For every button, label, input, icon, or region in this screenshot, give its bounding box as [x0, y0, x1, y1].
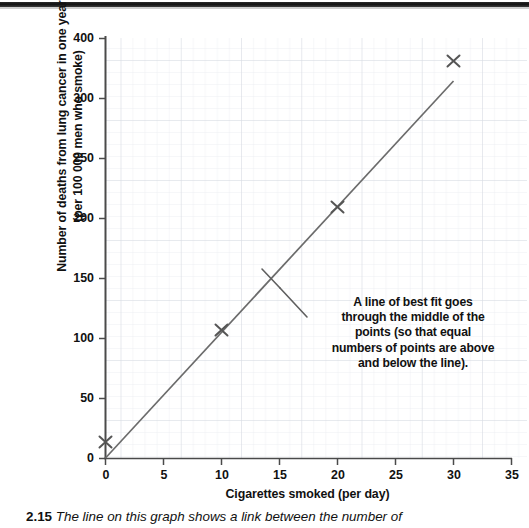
figure-caption-number: 2.15: [26, 509, 52, 524]
y-axis-title: Number of deaths from lung cancer in one…: [54, 0, 86, 346]
grid-paper: [105, 38, 527, 458]
annotation-line-3: points (so that equal: [305, 325, 521, 340]
annotation-line-5: and below the line).: [305, 356, 521, 371]
xtick-label-20: 20: [323, 468, 353, 482]
ytick-label-0: 0: [48, 451, 94, 465]
figure-caption: 2.15 The line on this graph shows a link…: [26, 508, 529, 526]
xtick-label-35: 35: [497, 468, 527, 482]
ytick-label-50: 50: [48, 391, 94, 405]
y-axis-title-line2: (per 100 000 men who smoke): [70, 0, 86, 346]
annotation-text: A line of best fit goes through the midd…: [305, 295, 521, 371]
figure-scatter-plot: 400 300 250 200 150 100 50 0 0 5 10 15 2…: [0, 0, 529, 528]
xtick-label-15: 15: [265, 468, 295, 482]
xtick-label-30: 30: [439, 468, 469, 482]
y-axis-title-line1: Number of deaths from lung cancer in one…: [54, 0, 70, 346]
annotation-line-2: through the middle of the: [305, 310, 521, 325]
figure-caption-text: The line on this graph shows a link betw…: [56, 509, 402, 524]
annotation-line-1: A line of best fit goes: [305, 295, 521, 310]
xtick-label-25: 25: [381, 468, 411, 482]
xtick-label-10: 10: [207, 468, 237, 482]
x-axis-title: Cigarettes smoked (per day): [105, 487, 510, 501]
xtick-label-0: 0: [91, 468, 121, 482]
annotation-line-4: numbers of points are above: [305, 341, 521, 356]
xtick-label-5: 5: [149, 468, 179, 482]
